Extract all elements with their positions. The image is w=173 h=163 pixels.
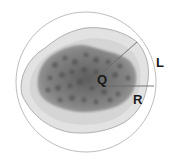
cell-diagram: Q L R xyxy=(0,0,173,163)
label-l: L xyxy=(156,55,164,70)
label-r: R xyxy=(133,92,143,107)
diagram-canvas: Q L R xyxy=(0,0,173,163)
label-q: Q xyxy=(97,72,107,87)
